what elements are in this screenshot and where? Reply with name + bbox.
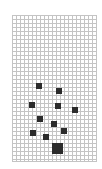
board-piece[interactable]: [30, 130, 36, 136]
board-piece[interactable]: [56, 88, 62, 94]
board-piece[interactable]: [51, 121, 57, 127]
board-piece[interactable]: [43, 134, 49, 140]
board-piece[interactable]: [36, 83, 42, 89]
game-grid-board[interactable]: [12, 15, 97, 162]
board-piece[interactable]: [29, 102, 35, 108]
board-piece[interactable]: [37, 116, 43, 122]
board-piece[interactable]: [55, 103, 61, 109]
board-piece[interactable]: [72, 107, 78, 113]
board-piece[interactable]: [61, 128, 67, 134]
board-piece[interactable]: [52, 143, 63, 154]
